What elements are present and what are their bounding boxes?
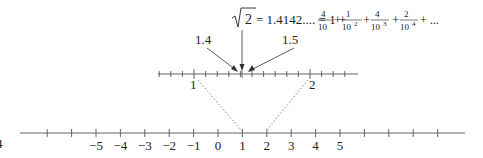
zoom-number-line — [158, 69, 358, 79]
equation-tail: + ... — [420, 13, 439, 27]
main-tick-labels: −5−4−3−2−1012345 — [89, 138, 343, 153]
label-1-4: 1.4 — [195, 32, 212, 47]
arrow-1-5 — [248, 48, 294, 72]
main-tick-label: 5 — [337, 138, 344, 153]
svg-text:+: + — [363, 12, 370, 27]
sqrt-radical-icon — [232, 8, 256, 27]
main-tick-label: −4 — [113, 138, 127, 153]
svg-text:10: 10 — [318, 22, 328, 32]
radicand: 2 — [245, 12, 252, 27]
main-tick-label: 1 — [239, 138, 246, 153]
svg-text:10: 10 — [400, 22, 410, 32]
main-tick-label: −1 — [187, 138, 201, 153]
svg-text:4: 4 — [321, 9, 326, 19]
main-tick-label: 4 — [312, 138, 319, 153]
fraction-term-4: 2 10 4 — [400, 9, 418, 32]
arrow-1-4 — [207, 48, 238, 72]
svg-text:3: 3 — [383, 20, 387, 28]
svg-text:4: 4 — [412, 20, 416, 28]
sqrt2-equation: 2 = 1.4142.... = 1 + 4 10 + 1 10 2 + 4 1… — [232, 8, 439, 32]
sqrt2-arrow — [240, 30, 245, 71]
svg-text:+: + — [334, 12, 341, 27]
svg-text:2: 2 — [404, 9, 409, 19]
fraction-term-3: 4 10 3 — [371, 9, 389, 32]
label-1-5: 1.5 — [282, 32, 298, 47]
zoom-connectors — [198, 80, 308, 131]
main-tick-label: 3 — [288, 138, 295, 153]
main-number-line — [20, 129, 465, 137]
equation-value: = 1.4142.... = 1 + — [256, 12, 346, 27]
svg-text:2: 2 — [354, 20, 358, 28]
sqrt2-number-line-diagram: 2 = 1.4142.... = 1 + 4 10 + 1 10 2 + 4 1… — [0, 0, 483, 158]
main-tick-label: −3 — [138, 138, 152, 153]
zoom-label-2: 2 — [309, 77, 316, 92]
svg-text:10: 10 — [342, 22, 352, 32]
zoom-label-1: 1 — [190, 77, 197, 92]
svg-text:1: 1 — [346, 9, 351, 19]
main-tick-label: −2 — [162, 138, 176, 153]
main-tick-label: 2 — [264, 138, 271, 153]
svg-text:4: 4 — [375, 9, 380, 19]
main-tick-label: 0 — [215, 138, 222, 153]
svg-text:10: 10 — [371, 22, 381, 32]
svg-text:+: + — [392, 12, 399, 27]
edge-label: 4 — [0, 136, 3, 151]
main-tick-label: −5 — [89, 138, 103, 153]
